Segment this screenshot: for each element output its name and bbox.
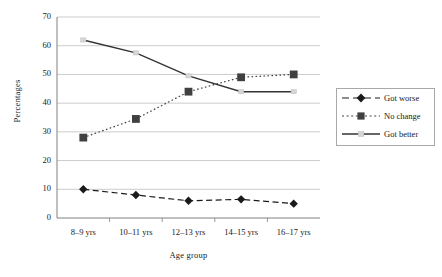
series-line bbox=[83, 74, 293, 137]
data-point-marker bbox=[186, 74, 191, 78]
data-point-marker bbox=[132, 191, 140, 199]
axis-lines bbox=[57, 17, 320, 218]
x-axis-tick-label: 14–15 yrs bbox=[211, 228, 271, 237]
y-axis-tick-label: 70 bbox=[25, 12, 51, 21]
data-point-marker bbox=[184, 197, 192, 205]
data-point-marker bbox=[290, 71, 298, 79]
legend-marker-diamond-icon bbox=[341, 91, 381, 105]
legend-label-got-better: Got better bbox=[384, 129, 418, 139]
data-point-marker bbox=[79, 134, 87, 142]
x-axis-tick-label: 8–9 yrs bbox=[53, 228, 113, 237]
x-axis-title: Age group bbox=[57, 250, 320, 260]
y-axis-title: Percentages bbox=[12, 56, 22, 146]
y-axis-tick-label: 20 bbox=[25, 156, 51, 165]
y-axis-tick-label: 50 bbox=[25, 69, 51, 78]
data-point-marker bbox=[291, 90, 296, 94]
legend-marker-square-icon bbox=[341, 109, 381, 123]
data-point-marker bbox=[239, 90, 244, 94]
y-axis-tick-label: 0 bbox=[25, 213, 51, 222]
data-series-layer bbox=[79, 38, 298, 208]
data-point-marker bbox=[132, 115, 140, 123]
legend-item-got-better[interactable]: Got better bbox=[337, 125, 434, 143]
legend-item-no-change[interactable]: No change bbox=[337, 107, 434, 125]
y-axis-tick-label: 60 bbox=[25, 41, 51, 50]
chart-container: Percentages Age group 010203040506070 8–… bbox=[0, 0, 442, 277]
y-axis-tick-label: 10 bbox=[25, 184, 51, 193]
data-point-marker bbox=[79, 185, 87, 193]
legend-label-no-change: No change bbox=[384, 111, 421, 121]
y-axis-tick-label: 40 bbox=[25, 98, 51, 107]
data-point-marker bbox=[237, 195, 245, 203]
x-axis-tick-label: 12–13 yrs bbox=[159, 228, 219, 237]
data-point-marker bbox=[81, 38, 86, 42]
data-point-marker bbox=[133, 51, 138, 55]
x-axis-tick-label: 10–11 yrs bbox=[106, 228, 166, 237]
x-axis-ticks bbox=[110, 218, 268, 222]
series-line bbox=[83, 40, 293, 92]
chart-legend: Got worse No change Got better bbox=[336, 88, 435, 146]
legend-label-got-worse: Got worse bbox=[384, 93, 419, 103]
x-axis-tick-label: 16–17 yrs bbox=[264, 228, 324, 237]
data-point-marker bbox=[290, 199, 298, 207]
data-point-marker bbox=[237, 73, 245, 81]
legend-item-got-worse[interactable]: Got worse bbox=[337, 89, 434, 107]
data-point-marker bbox=[185, 88, 193, 96]
y-axis-tick-label: 30 bbox=[25, 127, 51, 136]
legend-marker-line-icon bbox=[341, 127, 381, 141]
